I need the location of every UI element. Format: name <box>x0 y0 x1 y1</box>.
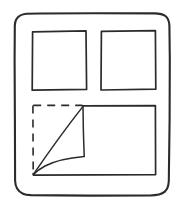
sketch-canvas <box>0 0 187 210</box>
sketch-diagram <box>0 0 187 210</box>
